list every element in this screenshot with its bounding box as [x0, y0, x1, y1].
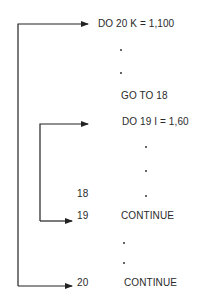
ellipsis-dot [145, 170, 147, 172]
statement-label-20: 20 [77, 277, 88, 289]
statement-label-18: 18 [77, 188, 88, 200]
ellipsis-dot [123, 242, 125, 244]
outer-do-statement: DO 20 K = 1,100 [98, 18, 174, 30]
inner-do-statement: DO 19 I = 1,60 [122, 116, 189, 128]
ellipsis-dot [123, 262, 125, 264]
outer-continue-statement: CONTINUE [124, 277, 177, 289]
loop-bracket-arrows [0, 0, 207, 307]
inner-continue-statement: CONTINUE [121, 210, 174, 222]
ellipsis-dot [145, 146, 147, 148]
inner-loop-bracket [40, 124, 88, 221]
statement-label-19: 19 [77, 210, 88, 222]
ellipsis-dot [120, 49, 122, 51]
outer-loop-bracket [18, 24, 88, 286]
nested-do-loop-diagram: DO 20 K = 1,100 GO TO 18 DO 19 I = 1,60 … [0, 0, 207, 307]
ellipsis-dot [120, 72, 122, 74]
ellipsis-dot [145, 195, 147, 197]
goto-statement: GO TO 18 [121, 90, 168, 102]
